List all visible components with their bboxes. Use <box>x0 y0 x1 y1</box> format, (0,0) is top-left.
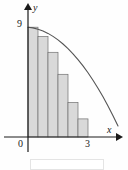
y-axis-label: y <box>33 3 37 13</box>
riemann-rectangle <box>38 37 48 137</box>
x-axis-label: x <box>107 125 111 135</box>
rectangle-group <box>28 27 88 137</box>
riemann-rectangle <box>48 52 58 137</box>
origin-label: 0 <box>18 139 23 149</box>
y-tick-label-9: 9 <box>17 19 22 29</box>
riemann-rectangle <box>58 74 68 137</box>
riemann-rectangle <box>28 27 38 137</box>
x-tick-label-3: 3 <box>85 139 90 149</box>
riemann-rectangle <box>68 103 78 138</box>
riemann-rectangle <box>78 119 88 137</box>
caption-box <box>30 159 104 170</box>
figure-container: y x 9 0 3 <box>0 0 128 170</box>
